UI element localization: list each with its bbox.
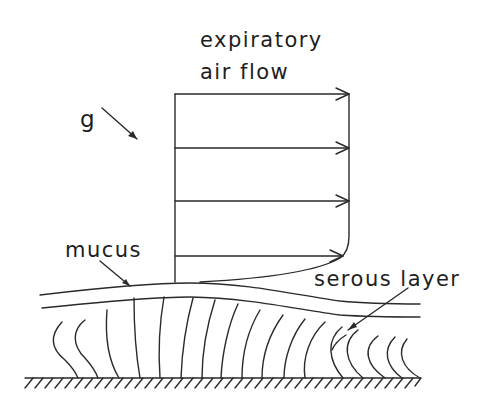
serous-pointer-arrow-icon — [348, 288, 408, 330]
gravity-label: g — [80, 108, 96, 131]
mucociliary-diagram: expiratory air flow g mucus serous layer — [0, 0, 502, 417]
mucus-pointer-arrow-icon — [100, 261, 130, 286]
flow-label-line2: air flow — [200, 62, 289, 83]
flow-label-line1: expiratory — [200, 30, 323, 51]
velocity-profile — [175, 88, 349, 282]
gravity-arrow-icon — [102, 108, 137, 139]
cilia — [53, 297, 420, 378]
serous-layer-label: serous layer — [314, 269, 461, 290]
profile-curve — [200, 94, 349, 282]
epithelium-wall — [25, 378, 421, 388]
mucus-label: mucus — [65, 240, 142, 261]
